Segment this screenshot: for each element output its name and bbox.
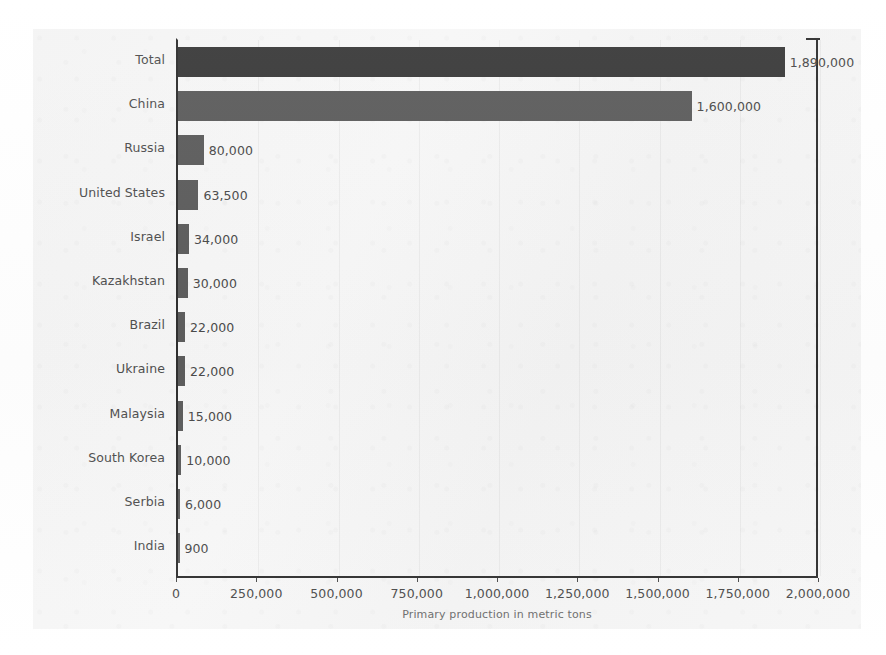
- category-label: Serbia: [0, 487, 165, 517]
- bar-value-label: 63,500: [203, 187, 247, 202]
- bar-value-label: 22,000: [190, 364, 234, 379]
- bar-row: 63,500: [178, 180, 820, 210]
- bar-row: 1,890,000: [178, 47, 820, 77]
- bar: [178, 91, 692, 121]
- bar-row: 1,600,000: [178, 91, 820, 121]
- x-tick-mark: [176, 578, 177, 582]
- bar: [178, 135, 204, 165]
- bar-value-label: 15,000: [188, 408, 232, 423]
- bar: [178, 533, 180, 563]
- category-label: Malaysia: [0, 399, 165, 429]
- category-label: China: [0, 89, 165, 119]
- plot-area: 1,890,0001,600,00080,00063,50034,00030,0…: [176, 38, 818, 578]
- bar: [178, 224, 189, 254]
- category-label: Total: [0, 45, 165, 75]
- bar: [178, 47, 785, 77]
- bar-value-label: 80,000: [209, 143, 253, 158]
- bar-value-label: 10,000: [186, 452, 230, 467]
- bar-row: 6,000: [178, 489, 820, 519]
- bar-value-label: 30,000: [193, 276, 237, 291]
- bar: [178, 445, 181, 475]
- x-tick-label: 2,000,000: [748, 586, 886, 601]
- scanned-page: 1,890,0001,600,00080,00063,50034,00030,0…: [0, 0, 886, 655]
- bar: [178, 356, 185, 386]
- category-label: United States: [0, 178, 165, 208]
- x-tick-mark: [658, 578, 659, 582]
- bar-value-label: 900: [185, 541, 209, 556]
- category-label: South Korea: [0, 443, 165, 473]
- x-tick-mark: [337, 578, 338, 582]
- bar-value-label: 6,000: [185, 497, 221, 512]
- bar-row: 34,000: [178, 224, 820, 254]
- bar: [178, 489, 180, 519]
- x-tick-mark: [256, 578, 257, 582]
- bar-value-label: 22,000: [190, 320, 234, 335]
- category-label: India: [0, 531, 165, 561]
- gridline: [820, 40, 821, 576]
- plot-top-border: [806, 38, 820, 40]
- bar-value-label: 1,600,000: [697, 99, 762, 114]
- category-label: Kazakhstan: [0, 266, 165, 296]
- bar-chart: 1,890,0001,600,00080,00063,50034,00030,0…: [0, 0, 886, 655]
- bar-row: 22,000: [178, 312, 820, 342]
- bar: [178, 401, 183, 431]
- bar-value-label: 34,000: [194, 231, 238, 246]
- bar-row: 30,000: [178, 268, 820, 298]
- bar: [178, 180, 198, 210]
- category-label: Ukraine: [0, 354, 165, 384]
- category-label: Israel: [0, 222, 165, 252]
- x-tick-mark: [577, 578, 578, 582]
- category-label: Brazil: [0, 310, 165, 340]
- x-tick-mark: [818, 578, 819, 582]
- bar-row: 900: [178, 533, 820, 563]
- bar-value-label: 1,890,000: [790, 55, 855, 70]
- bar-row: 80,000: [178, 135, 820, 165]
- x-tick-mark: [497, 578, 498, 582]
- bar: [178, 312, 185, 342]
- x-tick-mark: [738, 578, 739, 582]
- bar-row: 10,000: [178, 445, 820, 475]
- x-axis-title: Primary production in metric tons: [176, 608, 818, 621]
- bar-row: 22,000: [178, 356, 820, 386]
- bar-row: 15,000: [178, 401, 820, 431]
- category-label: Russia: [0, 133, 165, 163]
- bar: [178, 268, 188, 298]
- x-tick-mark: [417, 578, 418, 582]
